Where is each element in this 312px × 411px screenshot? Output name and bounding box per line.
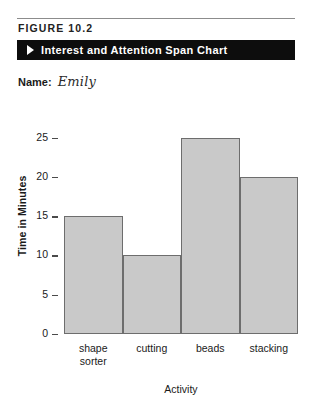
plot-area bbox=[64, 118, 298, 334]
y-tick-mark bbox=[52, 177, 58, 178]
y-tick-mark bbox=[52, 216, 58, 217]
x-axis-title: Activity bbox=[64, 383, 298, 395]
y-tick-label: 10 bbox=[22, 248, 48, 260]
bar bbox=[64, 216, 123, 334]
y-tick-mark bbox=[52, 334, 58, 335]
x-tick-label: stacking bbox=[230, 342, 309, 355]
bar bbox=[123, 255, 182, 334]
y-tick-label: 20 bbox=[22, 170, 48, 182]
bar bbox=[181, 138, 240, 334]
y-tick-label: 0 bbox=[22, 327, 48, 339]
y-tick-mark bbox=[52, 138, 58, 139]
y-tick-label: 15 bbox=[22, 209, 48, 221]
y-tick-label: 25 bbox=[22, 131, 48, 143]
y-tick-mark bbox=[52, 255, 58, 256]
y-tick-mark bbox=[52, 295, 58, 296]
bar bbox=[240, 177, 299, 334]
y-tick-label: 5 bbox=[22, 288, 48, 300]
figure-page: FIGURE 10.2 Interest and Attention Span … bbox=[0, 0, 312, 411]
bar-chart: Time in Minutes 0510152025 shapesortercu… bbox=[0, 0, 312, 411]
